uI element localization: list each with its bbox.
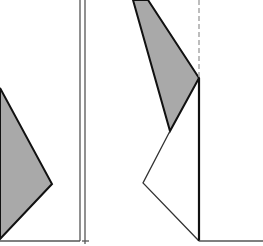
geometric-diagram: [0, 0, 263, 246]
right-shaded-wedge: [133, 0, 199, 131]
left-shaded-wedge: [0, 88, 52, 239]
right-outline-wedge: [143, 131, 199, 241]
